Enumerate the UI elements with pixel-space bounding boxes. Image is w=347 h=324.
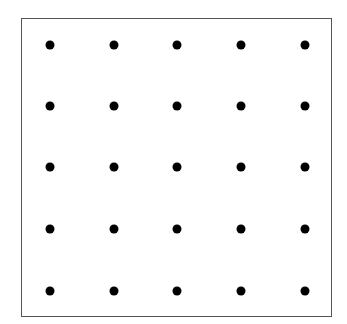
grid-dot — [110, 41, 119, 50]
grid-dot — [237, 163, 246, 172]
grid-dot — [46, 41, 55, 50]
grid-dot — [173, 41, 182, 50]
grid-dot — [301, 225, 310, 234]
grid-dot — [46, 225, 55, 234]
grid-dot — [237, 102, 246, 111]
grid-dot — [173, 102, 182, 111]
grid-dot — [46, 287, 55, 296]
grid-dot — [301, 163, 310, 172]
grid-dot — [301, 41, 310, 50]
grid-dot — [173, 225, 182, 234]
grid-dot — [110, 287, 119, 296]
grid-dot — [237, 225, 246, 234]
grid-dot — [46, 163, 55, 172]
grid-dot — [46, 102, 55, 111]
grid-dot — [110, 225, 119, 234]
grid-dot — [237, 41, 246, 50]
grid-dot — [173, 287, 182, 296]
grid-dot — [237, 287, 246, 296]
grid-dot — [110, 102, 119, 111]
grid-dot — [301, 102, 310, 111]
grid-dot — [110, 163, 119, 172]
grid-dot — [173, 163, 182, 172]
grid-dot — [301, 287, 310, 296]
